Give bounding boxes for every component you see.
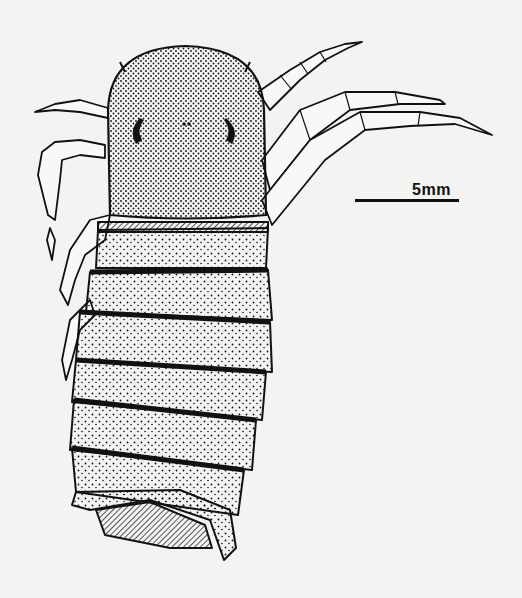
segment-1	[96, 228, 268, 268]
right-legs	[258, 42, 492, 225]
head	[108, 46, 266, 219]
cephalon	[108, 46, 266, 219]
specimen-illustration	[0, 0, 522, 598]
scale-bar-label: 5mm	[412, 181, 451, 199]
scale-bar	[355, 199, 459, 202]
thorax-segments	[70, 222, 272, 560]
